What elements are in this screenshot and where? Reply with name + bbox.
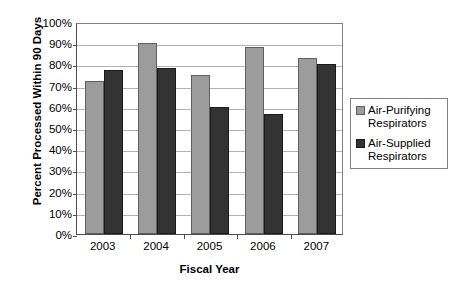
y-tick-label: 80%: [28, 59, 72, 71]
bar: [191, 75, 210, 234]
bar: [104, 70, 123, 234]
chart-legend: Air-PurifyingRespiratorsAir-SuppliedResp…: [350, 98, 448, 169]
legend-label-line2: Respirators: [368, 150, 427, 162]
x-tick-label: 2006: [250, 240, 276, 252]
bar-chart: Percent Processed Within 90 Days 0%10%20…: [0, 0, 453, 292]
light-gray-icon: [356, 106, 365, 115]
legend-entry: Air-SuppliedRespirators: [356, 137, 443, 163]
plot-area: [76, 23, 343, 235]
legend-label: Air-PurifyingRespirators: [368, 104, 431, 130]
bar: [317, 64, 336, 234]
y-tick-label: 90%: [28, 38, 72, 50]
y-tick-label: 0%: [28, 229, 72, 241]
y-tick-label: 20%: [28, 187, 72, 199]
x-axis-title: Fiscal Year: [76, 263, 343, 275]
y-axis-tick-labels: 0%10%20%30%40%50%60%70%80%90%100%: [28, 18, 72, 234]
bar: [210, 107, 229, 234]
y-tick-label: 10%: [28, 208, 72, 220]
y-tick-label: 70%: [28, 81, 72, 93]
x-tick-label: 2004: [143, 240, 169, 252]
y-tick-label: 50%: [28, 123, 72, 135]
x-tick-mark: [291, 234, 292, 239]
y-tick-label: 60%: [28, 102, 72, 114]
x-tick-label: 2007: [304, 240, 330, 252]
y-tick-label: 30%: [28, 165, 72, 177]
bar: [138, 43, 157, 234]
bars-layer: [77, 24, 342, 234]
bar-group: [77, 24, 130, 234]
bar-group: [130, 24, 183, 234]
bar-group: [184, 24, 237, 234]
x-tick-mark: [237, 234, 238, 239]
bar: [298, 58, 317, 234]
legend-label-line2: Respirators: [368, 117, 427, 129]
bar: [264, 114, 283, 234]
x-tick-label: 2003: [90, 240, 116, 252]
bar: [157, 68, 176, 234]
legend-label-line1: Air-Supplied: [368, 137, 431, 149]
y-tick-label: 100%: [28, 17, 72, 29]
x-axis-tick-labels: 20032004200520062007: [76, 240, 343, 256]
bar-group: [237, 24, 290, 234]
legend-entry: Air-PurifyingRespirators: [356, 104, 443, 130]
bar: [85, 81, 104, 234]
bar: [245, 47, 264, 234]
y-tick-label: 40%: [28, 144, 72, 156]
x-tick-label: 2005: [197, 240, 223, 252]
y-tick-mark: [73, 236, 77, 237]
dark-gray-icon: [356, 139, 365, 148]
bar-group: [291, 24, 344, 234]
x-tick-mark: [130, 234, 131, 239]
legend-label-line1: Air-Purifying: [368, 104, 431, 116]
x-tick-mark: [184, 234, 185, 239]
legend-label: Air-SuppliedRespirators: [368, 137, 431, 163]
